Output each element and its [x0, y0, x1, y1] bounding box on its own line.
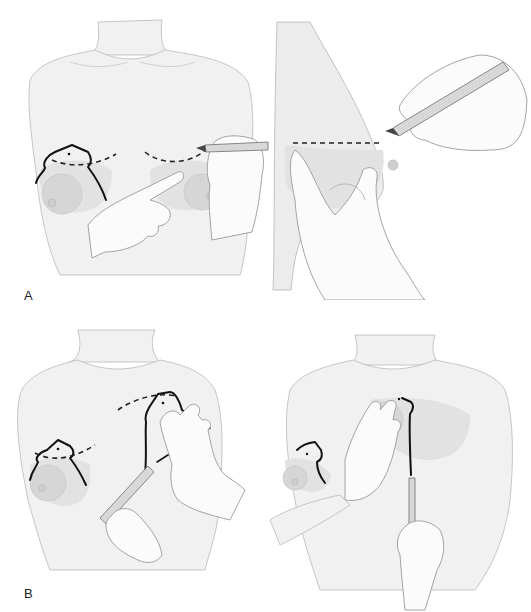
panel-label-b: B — [24, 586, 33, 601]
panel-a-front-view — [0, 0, 275, 285]
panel-b-right-view — [265, 310, 531, 612]
torso-front-marking-illustration — [0, 310, 265, 585]
panel-a-side-view — [265, 0, 531, 300]
panel-label-a: A — [24, 288, 33, 303]
torso-front-illustration — [0, 0, 275, 285]
torso-side-illustration — [265, 0, 531, 300]
torso-front-vertical-limb-illustration — [265, 310, 531, 612]
panel-b-left-view — [0, 310, 265, 585]
